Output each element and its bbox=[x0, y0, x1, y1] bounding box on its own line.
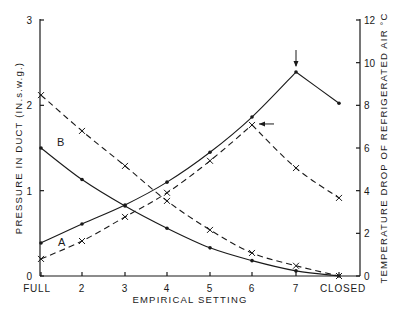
y-tick-left: 1 bbox=[26, 186, 32, 197]
x-tick: FULL bbox=[23, 283, 51, 294]
data-point-cross bbox=[79, 128, 85, 134]
data-point-dot bbox=[80, 178, 84, 182]
data-point-cross bbox=[249, 250, 255, 256]
curve-label-a: A bbox=[58, 236, 66, 248]
y-tick-right: 8 bbox=[364, 100, 370, 111]
y-tick-right: 12 bbox=[364, 15, 376, 26]
y-tick-right: 6 bbox=[364, 143, 370, 154]
y-tick-left: 3 bbox=[26, 15, 32, 26]
x-tick: 7 bbox=[293, 283, 299, 294]
data-point-cross bbox=[79, 238, 85, 244]
data-point-dot bbox=[294, 70, 298, 74]
data-point-cross bbox=[164, 190, 170, 196]
data-point-dot bbox=[250, 259, 254, 263]
data-point-cross bbox=[207, 158, 213, 164]
data-point-dot bbox=[337, 101, 341, 105]
data-point-cross bbox=[38, 92, 44, 98]
data-point-cross bbox=[293, 165, 299, 171]
data-point-dot bbox=[39, 146, 43, 150]
annotations bbox=[259, 50, 299, 126]
data-point-dot bbox=[250, 115, 254, 119]
data-point-dot bbox=[80, 222, 84, 226]
data-point-dot bbox=[39, 241, 43, 245]
data-point-dot bbox=[165, 226, 169, 230]
data-point-dot bbox=[208, 150, 212, 154]
data-point-cross bbox=[122, 163, 128, 169]
data-point-dot bbox=[294, 269, 298, 273]
x-tick: 2 bbox=[79, 283, 85, 294]
series-line-1 bbox=[41, 95, 339, 276]
data-point-cross bbox=[336, 195, 342, 201]
data-point-cross bbox=[207, 227, 213, 233]
arrow-left-head bbox=[259, 121, 265, 126]
data-point-cross bbox=[122, 214, 128, 220]
x-tick: 6 bbox=[249, 283, 255, 294]
x-tick: 4 bbox=[164, 283, 170, 294]
curve-label-b: B bbox=[57, 136, 64, 148]
data-point-dot bbox=[165, 180, 169, 184]
y-tick-right: 10 bbox=[364, 58, 376, 69]
series-group bbox=[38, 70, 342, 279]
data-point-dot bbox=[208, 246, 212, 250]
y-tick-right: 0 bbox=[364, 271, 370, 282]
y-axis-right-label: TEMPERATURE DROP OF REFRIGERATED AIR °C bbox=[378, 12, 389, 283]
y-tick-right: 2 bbox=[364, 228, 370, 239]
y-tick-right: 4 bbox=[364, 186, 370, 197]
axes: 0123024681012FULL234567CLOSED bbox=[23, 15, 375, 294]
arrow-down-head bbox=[294, 61, 299, 67]
x-tick: CLOSED bbox=[320, 283, 366, 294]
data-point-cross bbox=[38, 256, 44, 262]
y-tick-left: 2 bbox=[26, 100, 32, 111]
x-axis-label: EMPIRICAL SETTING bbox=[132, 294, 247, 305]
line-chart: 0123024681012FULL234567CLOSED A B EMPIRI… bbox=[0, 0, 403, 320]
x-tick: 3 bbox=[122, 283, 128, 294]
y-tick-left: 0 bbox=[26, 271, 32, 282]
x-tick: 5 bbox=[207, 283, 213, 294]
data-point-cross bbox=[164, 198, 170, 204]
data-point-cross bbox=[249, 122, 255, 128]
y-axis-left-label: PRESSURE IN DUCT (IN.s.w.g.) bbox=[13, 62, 24, 234]
data-point-dot bbox=[123, 203, 127, 207]
